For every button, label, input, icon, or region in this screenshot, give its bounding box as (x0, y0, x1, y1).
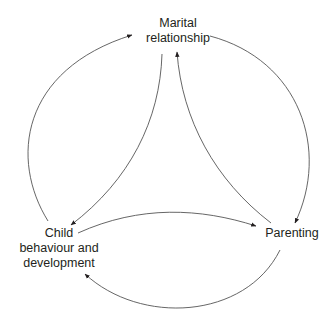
node-label-line: behaviour and (4, 241, 114, 256)
node-marital-relationship: Marital relationship (118, 16, 238, 46)
arrow-parenting-to-marital (177, 52, 271, 223)
arrow-child-to-marital (28, 35, 132, 221)
node-parenting: Parenting (250, 226, 334, 241)
node-label-line: relationship (118, 31, 238, 46)
node-label-line: development (4, 256, 114, 271)
arrow-parenting-to-child (85, 250, 280, 308)
arrow-marital-to-parenting (210, 36, 309, 223)
node-label-line: Marital (118, 16, 238, 31)
relationship-diagram (0, 0, 334, 322)
node-label-line: Parenting (250, 226, 334, 241)
node-label-line: Child (4, 226, 114, 241)
node-child-behaviour-development: Child behaviour and development (4, 226, 114, 271)
arrow-marital-to-child (71, 54, 162, 225)
